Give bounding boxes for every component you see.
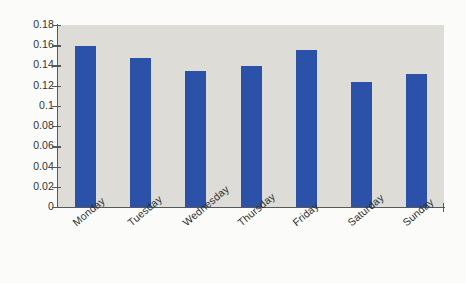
y-axis-tick-mark xyxy=(52,65,61,66)
y-axis-tick-mark xyxy=(52,106,61,107)
y-axis-tick-label: 0.02 xyxy=(33,180,54,192)
y-axis-tick: 0.12 xyxy=(0,86,66,87)
bar-chart-figure: 00.020.040.060.080.10.120.140.160.18 Mon… xyxy=(0,0,466,283)
y-axis-line xyxy=(57,24,58,208)
y-axis-tick: 0.14 xyxy=(0,65,66,66)
y-axis-tick-label: 0.14 xyxy=(33,58,54,70)
y-axis-tick: 0.02 xyxy=(0,187,66,188)
y-axis-tick-mark xyxy=(52,187,61,188)
y-axis-tick-label: 0.12 xyxy=(33,79,54,91)
bottom-dotted-rule xyxy=(0,278,466,280)
bar-saturday xyxy=(351,82,372,207)
y-axis-tick-mark xyxy=(52,167,61,168)
y-axis-tick-mark xyxy=(52,126,61,127)
y-axis-tick-mark xyxy=(52,207,61,208)
y-axis-tick-label: 0.16 xyxy=(33,38,54,50)
y-axis-tick-label: 0.18 xyxy=(33,18,54,30)
y-axis-tick-label: 0.08 xyxy=(33,119,54,131)
y-axis-tick-label: 0.1 xyxy=(39,99,54,111)
y-axis-tick-mark xyxy=(52,146,61,147)
y-axis-tick: 0.18 xyxy=(0,25,66,26)
top-dotted-rule xyxy=(0,6,466,8)
y-axis-tick-label: 0.04 xyxy=(33,160,54,172)
y-axis-tick: 0.1 xyxy=(0,106,66,107)
bar-thursday xyxy=(241,66,262,207)
y-axis-tick: 0.06 xyxy=(0,146,66,147)
y-axis-tick-label: 0.06 xyxy=(33,139,54,151)
bar-friday xyxy=(296,50,317,207)
y-axis-tick: 0.08 xyxy=(0,126,66,127)
bar-tuesday xyxy=(130,58,151,207)
y-axis-tick: 0.16 xyxy=(0,45,66,46)
y-axis-tick-mark xyxy=(52,25,61,26)
bar-wednesday xyxy=(185,71,206,208)
y-axis-tick-mark xyxy=(52,45,61,46)
y-axis-tick-label: 0 xyxy=(48,200,54,212)
x-axis-end-cap xyxy=(443,203,444,212)
bar-sunday xyxy=(406,74,427,207)
y-axis-tick: 0 xyxy=(0,207,66,208)
y-axis-tick: 0.04 xyxy=(0,167,66,168)
y-axis-tick-mark xyxy=(52,86,61,87)
bar-monday xyxy=(75,46,96,207)
